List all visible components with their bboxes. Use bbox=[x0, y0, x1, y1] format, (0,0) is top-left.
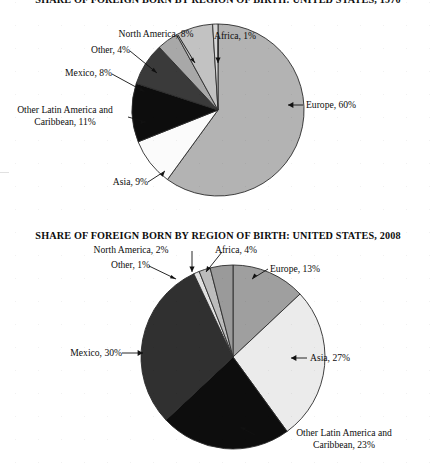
callout-other-latin-2008: Other Latin America and Caribbean, 23% bbox=[258, 427, 430, 450]
figure-1970: SHARE OF FOREIGN BORN BY REGION OF BIRTH… bbox=[0, 0, 436, 222]
chart-title-2008: SHARE OF FOREIGN BORN BY REGION OF BIRTH… bbox=[0, 230, 436, 241]
callout-europe-1970: Europe, 60% bbox=[306, 99, 416, 111]
pie-svg-1970 bbox=[118, 22, 318, 198]
callout-africa-2008: Africa, 4% bbox=[215, 244, 301, 256]
callout-other-2008: Other, 1% bbox=[66, 259, 150, 271]
callout-other-latin-1970: Other Latin America and Caribbean, 11% bbox=[2, 104, 128, 127]
callout-other-latin-2008-line2: Caribbean, 23% bbox=[258, 439, 430, 451]
callout-asia-2008: Asia, 27% bbox=[310, 352, 402, 364]
callout-other-latin-2008-line1: Other Latin America and bbox=[258, 427, 430, 439]
callout-north-america-2008: North America, 2% bbox=[70, 244, 192, 256]
paper-artifact-left bbox=[0, 172, 9, 173]
callout-other-1970: Other, 4% bbox=[46, 44, 130, 56]
callout-europe-2008: Europe, 13% bbox=[270, 263, 366, 275]
callout-mexico-1970: Mexico, 8% bbox=[26, 67, 112, 79]
pie-chart-2008 bbox=[138, 262, 328, 452]
pie-svg-2008 bbox=[138, 262, 328, 452]
callout-mexico-2008: Mexico, 30% bbox=[42, 347, 122, 359]
figure-2008: SHARE OF FOREIGN BORN BY REGION OF BIRTH… bbox=[0, 222, 436, 467]
callout-asia-1970: Asia, 9% bbox=[76, 176, 148, 188]
chart-title-1970: SHARE OF FOREIGN BORN BY REGION OF BIRTH… bbox=[0, 0, 436, 5]
callout-africa-1970: Africa, 1% bbox=[190, 30, 280, 42]
callout-other-latin-1970-line2: Caribbean, 11% bbox=[2, 116, 128, 128]
pie-chart-1970 bbox=[118, 22, 318, 198]
callout-other-latin-1970-line1: Other Latin America and bbox=[2, 104, 128, 116]
